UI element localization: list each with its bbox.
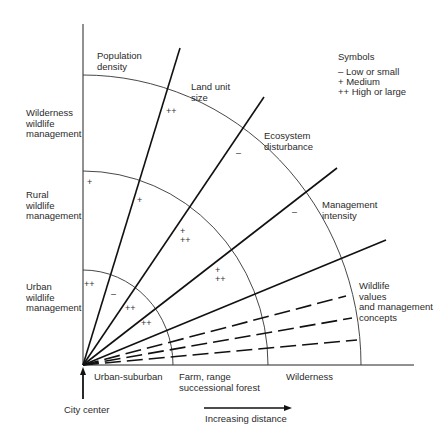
increasing-distance-label: Increasing distance: [205, 414, 287, 425]
urban-arc: [83, 270, 173, 365]
zone-label-urban: Urban wildlife management: [26, 282, 81, 314]
legend-item-high: ++ High or large: [338, 87, 406, 98]
zone-label-rural: Rural wildlife management: [26, 190, 81, 222]
rating-urban-land-unit-size: –: [111, 290, 116, 299]
rating-rural-population-density: +: [87, 178, 92, 187]
legend-title: Symbols: [338, 52, 374, 63]
axis-label-ecosystem-disturbance: Ecosystem disturbance: [264, 131, 313, 152]
rating-wilderness-land-unit-size: –: [236, 149, 241, 158]
city-center-arrowhead: [80, 367, 86, 375]
rating-rural-ecosystem-disturbance: + ++: [180, 227, 191, 245]
rural-arc: [83, 171, 268, 365]
axis-label-population-density: Population density: [97, 51, 142, 72]
increasing-distance-arrowhead: [284, 405, 292, 411]
city-center-label: City center: [64, 405, 109, 416]
axis-label-management-intensity: Management intensity: [322, 200, 377, 221]
rating-urban-management-intensity: ++: [141, 319, 152, 328]
zone-label-wilderness: Wilderness wildlife management: [26, 108, 81, 140]
wildlife-value-line-2: [83, 318, 352, 365]
rating-rural-management-intensity: + ++: [215, 266, 226, 284]
axis-label-land-unit-size: Land unit size: [191, 82, 230, 103]
rating-wilderness-population-density: ++: [166, 107, 177, 116]
band-label-urban-suburban: Urban-suburban: [94, 372, 163, 383]
rating-rural-land-unit-size: +: [137, 196, 142, 205]
axis-label-wildlife-values: Wildlife values and management concepts: [359, 281, 433, 323]
rating-urban-ecosystem-disturbance: ++: [125, 304, 136, 313]
rating-urban-population-density: ++: [84, 280, 95, 289]
wildlife-value-line-3: [83, 340, 357, 365]
wilderness-arc: [83, 75, 361, 365]
rating-wilderness-management-intensity: –: [292, 208, 297, 217]
ecosystem-disturbance-line: [83, 168, 337, 365]
band-label-farm: Farm, range successional forest: [179, 372, 260, 393]
population-density-line: [83, 48, 180, 365]
band-label-wilderness: Wilderness: [286, 372, 333, 383]
